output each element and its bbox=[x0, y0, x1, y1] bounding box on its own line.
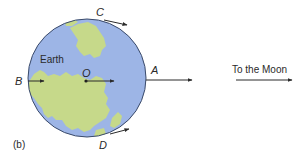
panel-label: (b) bbox=[13, 139, 25, 150]
label-c: C bbox=[96, 6, 104, 18]
label-b: B bbox=[15, 75, 22, 87]
land-south bbox=[28, 70, 110, 132]
label-a: A bbox=[150, 64, 158, 76]
label-earth: Earth bbox=[40, 54, 64, 65]
earth-tidal-force-diagram: O A B C D Earth (b) To the Moon bbox=[0, 0, 305, 159]
label-d: D bbox=[99, 139, 107, 151]
label-o: O bbox=[82, 67, 91, 79]
direction-label: To the Moon bbox=[232, 64, 287, 75]
